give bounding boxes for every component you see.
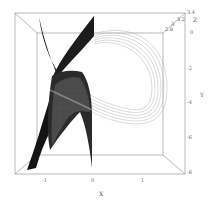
y-axis-label: Y [200, 92, 204, 98]
x-tick-minus1: -1 [42, 178, 47, 183]
x-tick-1: 1 [141, 178, 144, 183]
y-tick-minus4: -4 [187, 100, 192, 105]
y-tick-minus8: -8 [187, 170, 192, 175]
z-tick-2.8: 2.8 [165, 27, 173, 32]
z-axis-label: Z [193, 17, 197, 23]
z-tick-3.2: 3.2 [177, 17, 185, 22]
z-tick-3.4: 3.4 [187, 10, 195, 15]
x-axis-label: X [99, 191, 103, 197]
x-tick-0: 0 [91, 178, 94, 183]
y-tick-0: 0 [190, 30, 193, 35]
surface-plot-3d [0, 0, 213, 205]
y-tick-minus2: -2 [187, 66, 192, 71]
y-tick-minus6: -6 [187, 135, 192, 140]
